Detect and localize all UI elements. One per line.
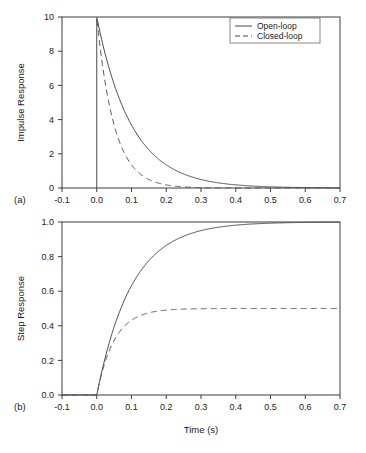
x-tick-label: 0.5: [264, 195, 277, 205]
panel-tag: (b): [14, 401, 26, 412]
x-tick-label: 0.7: [334, 195, 347, 205]
x-tick-label: 0.2: [160, 402, 173, 412]
y-axis-label: Impulse Response: [15, 63, 26, 142]
y-tick-label: 10: [44, 12, 54, 22]
x-tick-label: 0.1: [125, 195, 138, 205]
legend: Open-loopClosed-loop: [230, 18, 320, 43]
legend-label-closed-loop: Closed-loop: [257, 31, 303, 41]
x-tick-label: -0.1: [54, 195, 70, 205]
y-tick-label: 0.0: [41, 390, 54, 400]
y-tick-label: 2: [49, 149, 54, 159]
panel-tag: (a): [14, 194, 26, 205]
x-tick-label: 0.3: [195, 195, 208, 205]
series-closed-loop-curve: [62, 309, 340, 396]
y-tick-label: 0.6: [41, 286, 54, 296]
x-tick-label: 0.6: [299, 195, 312, 205]
legend-label-open-loop: Open-loop: [257, 21, 297, 31]
x-tick-label: -0.1: [54, 402, 70, 412]
y-tick-label: 1.0: [41, 217, 54, 227]
series-open-loop-curve: [97, 19, 340, 188]
x-tick-label: 0.1: [125, 402, 138, 412]
x-tick-label: 0.4: [229, 195, 242, 205]
panel-b: -0.10.00.10.20.30.40.50.60.70.00.20.40.6…: [14, 217, 346, 435]
x-tick-label: 0.0: [90, 402, 103, 412]
y-tick-label: 4: [49, 115, 54, 125]
y-tick-label: 8: [49, 46, 54, 56]
impulse-and-step-response-figure: -0.10.00.10.20.30.40.50.60.70246810Impul…: [0, 0, 366, 453]
x-tick-label: 0.4: [229, 402, 242, 412]
x-tick-label: 0.0: [90, 195, 103, 205]
y-tick-label: 0.2: [41, 356, 54, 366]
y-tick-label: 0.8: [41, 252, 54, 262]
x-tick-label: 0.6: [299, 402, 312, 412]
y-tick-label: 0: [49, 183, 54, 193]
series-closed-loop-curve: [97, 20, 340, 188]
x-tick-label: 0.5: [264, 402, 277, 412]
x-axis-label: Time (s): [184, 424, 218, 435]
x-tick-label: 0.3: [195, 402, 208, 412]
x-tick-label: 0.7: [334, 402, 347, 412]
figure-container: -0.10.00.10.20.30.40.50.60.70246810Impul…: [0, 0, 366, 453]
y-axis-label: Step Response: [15, 276, 26, 341]
x-tick-label: 0.2: [160, 195, 173, 205]
y-tick-label: 6: [49, 81, 54, 91]
y-tick-label: 0.4: [41, 321, 54, 331]
